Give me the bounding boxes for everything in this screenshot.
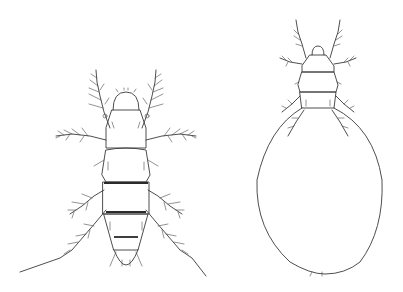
right-mite-figure [257,20,382,276]
illustration-canvas [0,0,403,292]
mite-illustrations [0,0,403,292]
left-mite-figure [20,70,206,276]
